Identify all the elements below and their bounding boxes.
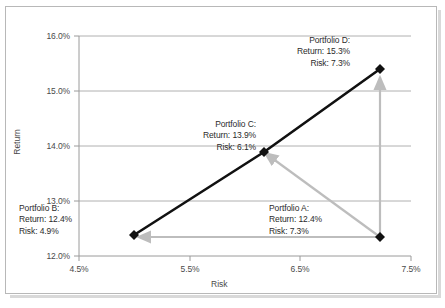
x-axis-title: Risk: [211, 279, 228, 289]
y-tick-label-16: 16.0%: [30, 31, 70, 41]
chart-figure: 16.0% 15.0% 14.0% 13.0% 12.0% 4.5% 5.5% …: [5, 6, 437, 294]
figure-shadow-bottom: [10, 295, 441, 298]
callout-portfolio-c-return: Return: 13.9%: [141, 130, 256, 141]
y-tick-label-15: 15.0%: [30, 86, 70, 96]
callout-portfolio-c-risk: Risk: 6.1%: [141, 142, 256, 153]
y-axis-title: Return: [12, 129, 22, 155]
callout-portfolio-c: Portfolio C: Return: 13.9% Risk: 6.1%: [141, 119, 256, 153]
x-tick-label-4-5: 4.5%: [59, 264, 99, 274]
callout-portfolio-d-return: Return: 15.3%: [235, 46, 350, 57]
callout-portfolio-b-return: Return: 12.4%: [19, 214, 134, 225]
callout-portfolio-b-title: Portfolio B:: [19, 203, 134, 214]
callout-portfolio-b: Portfolio B: Return: 12.4% Risk: 4.9%: [19, 203, 134, 237]
callout-portfolio-a-return: Return: 12.4%: [269, 214, 384, 225]
callout-portfolio-d-title: Portfolio D:: [235, 35, 350, 46]
callout-portfolio-a: Portfolio A: Return: 12.4% Risk: 7.3%: [269, 203, 384, 237]
x-tick-label-7-5: 7.5%: [391, 264, 431, 274]
callout-portfolio-a-risk: Risk: 7.3%: [269, 226, 384, 237]
callout-portfolio-d-risk: Risk: 7.3%: [235, 58, 350, 69]
y-tick-label-12: 12.0%: [30, 251, 70, 261]
callout-portfolio-d: Portfolio D: Return: 15.3% Risk: 7.3%: [235, 35, 350, 69]
x-tick-label-6-5: 6.5%: [280, 264, 320, 274]
callout-portfolio-c-title: Portfolio C:: [141, 119, 256, 130]
figure-shadow-right: [438, 10, 441, 298]
x-tick-marks: [79, 256, 411, 261]
callout-portfolio-b-risk: Risk: 4.9%: [19, 226, 134, 237]
callout-portfolio-a-title: Portfolio A:: [269, 203, 384, 214]
y-tick-label-14: 14.0%: [30, 141, 70, 151]
x-tick-label-5-5: 5.5%: [170, 264, 210, 274]
